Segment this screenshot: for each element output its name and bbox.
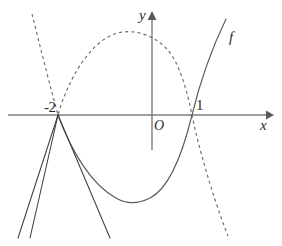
tangent-line-2 <box>30 115 58 238</box>
tangent-line-1 <box>18 115 58 238</box>
figure-canvas <box>0 0 282 246</box>
x-axis-label: x <box>260 118 267 133</box>
x-tick-label-negative-two: -2 <box>44 100 56 115</box>
origin-label: O <box>154 119 164 133</box>
math-figure: y x O f -2 1 <box>0 0 282 246</box>
x-tick-label-one: 1 <box>196 98 204 113</box>
y-axis-arrow-icon <box>148 11 157 20</box>
function-curve-label: f <box>229 30 233 45</box>
tangent-line-3 <box>58 115 110 238</box>
x-axis-arrow-icon <box>266 111 274 120</box>
y-axis-label: y <box>139 8 146 23</box>
